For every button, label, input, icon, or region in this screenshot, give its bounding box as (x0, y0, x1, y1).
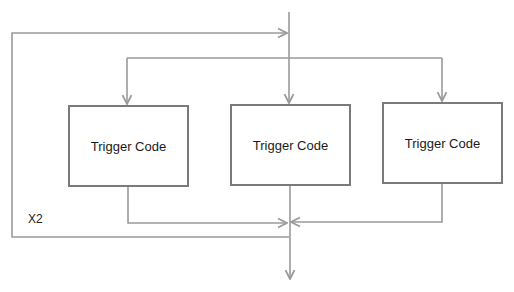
trigger-code-box-3: Trigger Code (382, 102, 503, 184)
loop-count-label: X2 (28, 212, 43, 226)
trigger-code-label-2: Trigger Code (253, 138, 328, 153)
trigger-code-box-2: Trigger Code (230, 104, 351, 186)
trigger-code-box-1: Trigger Code (68, 105, 189, 187)
trigger-code-label-1: Trigger Code (91, 139, 166, 154)
merge-line-1 (128, 186, 287, 223)
trigger-code-label-3: Trigger Code (405, 136, 480, 151)
merge-line-3 (291, 184, 442, 222)
